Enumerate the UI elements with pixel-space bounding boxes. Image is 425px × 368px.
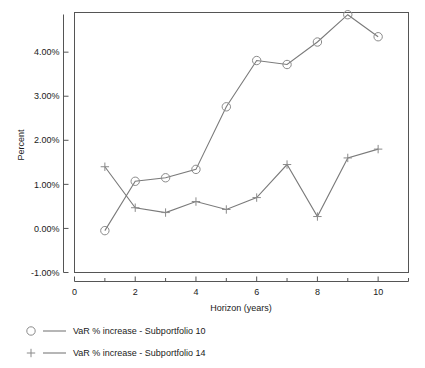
y-axis-tick-label: -1.00% (31, 268, 60, 278)
x-axis-tick-label: 4 (193, 287, 198, 297)
y-axis-tick-label: 2.00% (34, 135, 60, 145)
plot-frame (75, 13, 409, 273)
legend-entry-2[interactable]: VaR % increase - Subportfolio 14 (27, 348, 206, 358)
y-axis-tick-label: 1.00% (34, 180, 60, 190)
chart-legend: VaR % increase - Subportfolio 10VaR % in… (27, 326, 206, 358)
x-axis-tick-label: 8 (315, 287, 320, 297)
y-axis-tick-label: 0.00% (34, 224, 60, 234)
series-line (105, 15, 378, 231)
x-axis-tick-label: 2 (133, 287, 138, 297)
series-line (105, 149, 378, 216)
chart-figure: -1.00%0.00%1.00%2.00%3.00%4.00% 0246810 … (0, 0, 425, 368)
legend-label: VaR % increase - Subportfolio 14 (73, 348, 205, 358)
line-chart: -1.00%0.00%1.00%2.00%3.00%4.00% 0246810 … (0, 0, 425, 368)
circle-marker (27, 327, 35, 335)
series-1 (101, 11, 383, 235)
x-axis-tick-label: 10 (373, 287, 383, 297)
series-2 (101, 145, 383, 221)
x-axis: 0246810 (72, 277, 409, 297)
y-axis: -1.00%0.00%1.00%2.00%3.00%4.00% (31, 15, 69, 278)
x-axis-title: Horizon (years) (210, 303, 272, 313)
x-axis-tick-label: 0 (72, 287, 77, 297)
x-axis-tick-label: 6 (254, 287, 259, 297)
y-axis-title: Percent (16, 129, 26, 161)
y-axis-tick-label: 4.00% (34, 47, 60, 57)
series-layer (101, 11, 383, 235)
y-axis-tick-label: 3.00% (34, 91, 60, 101)
legend-entry-1[interactable]: VaR % increase - Subportfolio 10 (27, 326, 206, 336)
legend-label: VaR % increase - Subportfolio 10 (73, 326, 205, 336)
